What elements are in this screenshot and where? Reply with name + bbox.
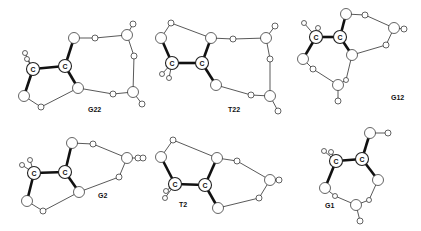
heavy-atom [320,183,331,194]
carbon-atom-label: C [31,170,36,177]
hydrogen-atom [335,98,341,104]
molecule-label: T2 [179,201,187,208]
hydrogen-atom [140,155,146,161]
molecule-g2: CCG2 [20,138,142,215]
heavy-atom [74,187,85,198]
heavy-atom [212,153,223,164]
carbon-atom-label: C [62,169,67,176]
hydrogen-atom [90,141,96,147]
hydrogen-atom [267,56,273,62]
hydrogen-atom [230,36,236,42]
heavy-atom [128,87,139,98]
heavy-atom [19,91,30,102]
hydrogen-atom [310,66,316,72]
hydrogen-atom [167,76,172,81]
hydrogen-atom [256,195,262,201]
heavy-atom [333,80,344,91]
molecule-label: G2 [98,192,107,199]
heavy-atom [67,138,78,149]
heavy-atom [265,175,276,186]
carbon-atom-label: C [30,66,35,73]
bond [79,177,119,192]
heavy-atom [156,33,167,44]
heavy-atom [211,80,222,91]
heavy-atom [73,83,84,94]
molecule-label: G12 [391,94,404,101]
hydrogen-atom [333,194,338,199]
molecule-g1: CCG1 [320,128,392,225]
hydrogen-atom [316,26,321,31]
hydrogen-atom [329,150,334,155]
hydrogen-atom [322,149,327,154]
molecule-label: T22 [228,106,240,113]
heavy-atom [373,175,384,186]
hydrogen-atom [344,78,349,83]
carbon-atom-label: C [359,156,364,163]
heavy-atom [351,200,362,211]
bond [171,23,211,38]
heavy-atom [265,91,276,102]
hydrogen-atom [302,21,307,26]
molecule-t22: CCT22 [156,20,282,114]
molecule-label: G22 [88,106,101,113]
heavy-atom [122,153,133,164]
hydrogen-atom [92,35,98,41]
hydrogen-atom [272,23,278,29]
hydrogen-atom [168,20,174,26]
hydrogen-atom [40,208,46,214]
molecule-g12: CCG12 [298,9,408,105]
hydrogen-atom [160,72,165,77]
heavy-atom [206,33,217,44]
heavy-atom [213,203,224,214]
carbon-atom-label: C [202,182,207,189]
bond [41,88,78,107]
carbon-atom-label: C [169,60,174,67]
hydrogen-atom [164,189,169,194]
molecule-g22: CCG22 [19,21,146,113]
heavy-atom [365,128,376,139]
hydrogen-atom [131,53,137,59]
bond [173,140,217,158]
hydrogen-atom [401,26,407,32]
hydrogen-atom [23,51,28,56]
heavy-atom [122,30,133,41]
hydrogen-atom [130,21,136,27]
heavy-atom [341,9,352,20]
heavy-atom [261,33,272,44]
hydrogen-atom [362,12,368,18]
bond [43,192,79,211]
hydrogen-atom [357,218,363,224]
hydrogen-atom [20,163,25,168]
hydrogen-atom [385,130,391,136]
hydrogen-atom [170,137,176,143]
hydrogen-atom [383,42,389,48]
carbon-atom-label: C [337,34,342,41]
heavy-atom [347,50,358,61]
heavy-atom [69,33,80,44]
heavy-atom [156,152,167,163]
hydrogen-atom [28,158,33,163]
carbon-atom-label: C [62,63,67,70]
molecule-figure: CCG22CCT22CCG12CCG2CCT2CCG1 [0,0,421,231]
heavy-atom [389,23,400,34]
hydrogen-atom [25,57,30,62]
hydrogen-atom [275,108,281,114]
carbon-atom-label: C [313,34,318,41]
hydrogen-atom [163,196,168,201]
hydrogen-atom [38,104,44,110]
hydrogen-atom [248,92,254,98]
bond [218,198,259,208]
carbon-atom-label: C [172,181,177,188]
heavy-atom [22,196,33,207]
hydrogen-atom [116,174,122,180]
molecule-label: G1 [325,202,334,209]
hydrogen-atom [276,177,282,183]
carbon-atom-label: C [199,60,204,67]
hydrogen-atom [234,158,240,164]
hydrogen-atom [110,91,116,97]
heavy-atom [298,54,309,65]
carbon-atom-label: C [333,158,338,165]
molecule-t2: CCT2 [140,137,282,214]
hydrogen-atom [367,198,372,203]
hydrogen-atom [139,101,145,107]
